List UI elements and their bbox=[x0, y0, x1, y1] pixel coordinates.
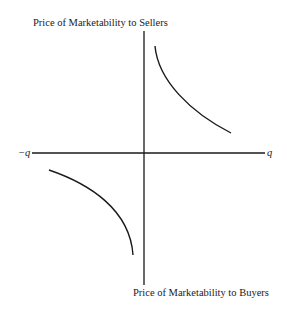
y-axis-top-label: Price of Marketability to Sellers bbox=[33, 18, 168, 29]
buyers-curve bbox=[49, 170, 133, 255]
x-axis-positive-label: q bbox=[267, 148, 272, 159]
y-axis-bottom-label: Price of Marketability to Buyers bbox=[133, 288, 269, 299]
sellers-curve bbox=[155, 46, 231, 133]
diagram-canvas bbox=[0, 0, 287, 309]
x-axis-negative-label: −q bbox=[18, 148, 30, 159]
